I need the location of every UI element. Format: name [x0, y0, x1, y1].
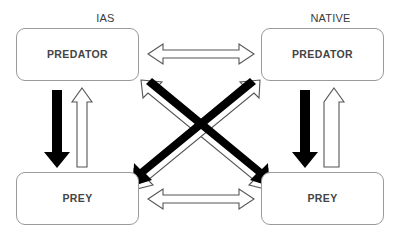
arrow-prey-prey-competition: [148, 189, 254, 209]
diagram-canvas: IAS NATIVE PREDATOR PREDATOR PREY PREY: [0, 0, 402, 249]
node-label-native-prey: PREY: [262, 192, 383, 204]
arrow-ias-prey-to-ias-predator: [72, 88, 92, 167]
arrow-native-predator-to-native-prey: [292, 90, 318, 168]
node-box-ias-predator[interactable]: PREDATOR: [16, 28, 139, 81]
arrow-predator-predator-competition: [148, 44, 254, 64]
arrow-native-prey-to-native-predator: [324, 88, 344, 167]
node-label-native-predator: PREDATOR: [262, 48, 383, 60]
node-box-native-predator[interactable]: PREDATOR: [261, 28, 384, 81]
node-box-ias-prey[interactable]: PREY: [16, 172, 139, 225]
node-label-ias-prey: PREY: [17, 192, 138, 204]
group-label-ias: IAS: [58, 12, 153, 24]
node-box-native-prey[interactable]: PREY: [261, 172, 384, 225]
arrow-ias-predator-to-ias-prey: [44, 90, 70, 168]
group-label-native: NATIVE: [283, 12, 378, 24]
node-label-ias-predator: PREDATOR: [17, 48, 138, 60]
